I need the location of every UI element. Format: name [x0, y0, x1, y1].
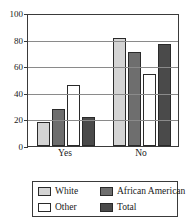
gridline — [28, 41, 178, 42]
plot-frame — [27, 14, 179, 147]
legend-label: African American — [117, 186, 185, 196]
gridline — [28, 14, 178, 15]
plot-area: 020406080100 YesNo — [0, 0, 190, 160]
legend-label: White — [55, 186, 78, 196]
x-tick-label: No — [135, 148, 147, 159]
legend-swatch-icon — [38, 203, 51, 212]
legend-swatch-icon — [38, 187, 51, 196]
bar — [113, 38, 126, 146]
bar — [37, 122, 50, 146]
legend-label: Other — [55, 202, 77, 212]
legend-item: Other — [38, 202, 100, 212]
bar — [143, 74, 156, 146]
y-axis: 020406080100 — [0, 0, 25, 160]
y-tick-label: 60 — [14, 63, 23, 72]
y-tick-label: 0 — [19, 143, 24, 152]
gridline — [28, 120, 178, 121]
legend-swatch-icon — [100, 203, 113, 212]
y-tick-label: 20 — [14, 116, 23, 125]
legend-label: Total — [117, 202, 136, 212]
x-tick-label: Yes — [58, 148, 72, 159]
legend-item: African American — [100, 186, 184, 196]
gridline — [28, 67, 178, 68]
y-tick-label: 100 — [10, 10, 24, 19]
bar — [52, 109, 65, 146]
grouped-bar-chart: 020406080100 YesNo WhiteAfrican American… — [0, 0, 190, 223]
x-axis: YesNo — [27, 148, 179, 162]
bar — [158, 44, 171, 146]
bars-layer — [28, 14, 178, 146]
y-tick-label: 80 — [14, 36, 23, 45]
y-tick-label: 40 — [14, 89, 23, 98]
legend-swatch-icon — [100, 187, 113, 196]
legend-item: White — [38, 186, 100, 196]
chart-legend: WhiteAfrican AmericanOtherTotal — [32, 181, 178, 217]
bar — [128, 52, 141, 146]
legend-item: Total — [100, 202, 184, 212]
gridline — [28, 94, 178, 95]
